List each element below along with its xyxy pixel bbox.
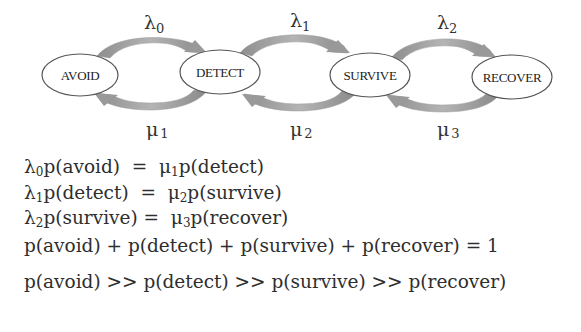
rate-mu-2: μ2 [290,118,313,141]
rate-lambda-2: λ2 [437,11,457,36]
forward-arrow-detect-survive [240,35,350,56]
state-label-detect: DETECT [196,65,244,80]
backward-arrow-recover-survive [386,94,498,112]
state-recover: RECOVER [472,55,552,99]
state-label-avoid: AVOID [61,68,100,83]
state-survive: SURVIVE [330,53,410,97]
balance-equation-0: λ0p(avoid) = μ1p(detect) [24,158,264,177]
backward-arrow-detect-avoid [94,90,206,110]
state-transition-diagram: AVOID DETECT SURVIVE RECOVER λ0 λ1 λ2 μ1… [0,0,581,150]
ordering-inequality: p(avoid) >> p(detect) >> p(survive) >> p… [24,273,506,292]
rate-mu-1: μ1 [146,118,169,141]
backward-arrow-survive-detect [242,91,356,111]
rate-lambda-0: λ0 [144,11,164,36]
normalization-equation: p(avoid) + p(detect) + p(survive) + p(re… [24,237,499,256]
rate-mu-3: μ3 [437,118,460,141]
state-label-survive: SURVIVE [343,68,397,83]
state-label-recover: RECOVER [483,70,542,85]
forward-arrow-avoid-detect [97,38,206,58]
state-detect: DETECT [180,50,260,94]
state-avoid: AVOID [42,54,118,96]
balance-equation-1: λ1p(detect) = μ2p(survive) [24,184,282,203]
balance-equation-2: λ2p(survive) = μ3p(recover) [24,209,288,228]
rate-lambda-1: λ1 [290,9,310,34]
forward-arrow-survive-recover [392,39,496,60]
